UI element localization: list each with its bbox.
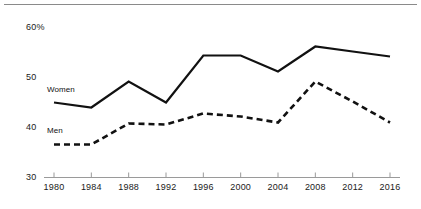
series-lines: [54, 47, 390, 145]
x-axis-label: 2000: [230, 183, 251, 192]
x-axis-label: 1996: [193, 183, 214, 192]
y-axis-label: 60%: [26, 23, 45, 32]
series-label-men: Men: [47, 127, 63, 135]
x-axis-label: 1992: [156, 183, 177, 192]
x-axis-label: 2016: [380, 183, 401, 192]
line-chart-plot: [0, 0, 421, 209]
x-axis-label: 2004: [268, 183, 289, 192]
x-axis-ticks: [54, 173, 390, 178]
chart-container: 60%504030 198019841988199219962000200420…: [0, 0, 421, 209]
y-axis-label: 40: [26, 123, 36, 132]
x-axis-label: 1984: [81, 183, 102, 192]
y-axis-label: 50: [26, 73, 36, 82]
x-axis-label: 2012: [342, 183, 363, 192]
x-axis-label: 1980: [44, 183, 65, 192]
y-axis-label: 30: [26, 173, 36, 182]
series-line-women: [54, 47, 390, 108]
x-axis-label: 2008: [305, 183, 326, 192]
series-label-women: Women: [47, 86, 75, 94]
series-line-men: [54, 82, 390, 145]
x-axis-label: 1988: [118, 183, 139, 192]
